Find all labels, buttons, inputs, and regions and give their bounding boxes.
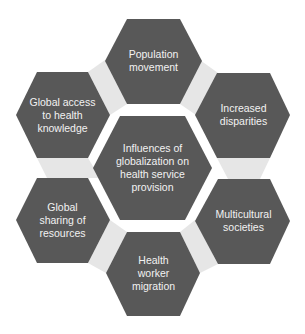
connector-lowerleft-upperleft (37, 158, 100, 178)
connector-upperright-lowerright (217, 158, 270, 179)
hexagon-center (93, 116, 212, 220)
globalization-hexagon-diagram (0, 0, 305, 334)
